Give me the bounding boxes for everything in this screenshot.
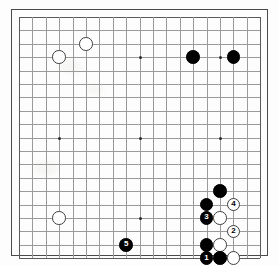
star-point [219, 137, 222, 140]
grid-line-vertical [86, 17, 87, 258]
stone-white[interactable] [213, 211, 227, 225]
grid-line-vertical [99, 17, 100, 258]
stone-black[interactable] [213, 184, 227, 198]
stone-move-number: 4 [231, 200, 235, 208]
grid-line-vertical [113, 17, 114, 258]
stone-move-number: 3 [204, 213, 208, 221]
stone-black[interactable] [200, 238, 214, 252]
grid-line-vertical [153, 17, 154, 258]
star-point [58, 137, 61, 140]
stone-black[interactable] [186, 50, 200, 64]
grid-line-vertical [19, 17, 20, 258]
grid-line-vertical [126, 17, 127, 258]
grid-line-vertical [260, 17, 261, 258]
stone-move-number: 1 [204, 254, 208, 262]
star-point [139, 137, 142, 140]
grid-line-vertical [73, 17, 74, 258]
grid-line-vertical [32, 17, 33, 258]
stone-white[interactable] [52, 211, 66, 225]
star-point [139, 217, 142, 220]
grid-line-vertical [247, 17, 248, 258]
stone-move-number: 2 [231, 227, 235, 235]
grid-line-vertical [46, 17, 47, 258]
star-point [139, 56, 142, 59]
stone-white[interactable] [79, 37, 93, 51]
stone-black[interactable] [213, 251, 227, 265]
stone-white[interactable] [227, 251, 241, 265]
numbered-stone-5[interactable]: 5 [119, 238, 133, 252]
stone-white[interactable] [52, 50, 66, 64]
stone-white[interactable] [213, 238, 227, 252]
go-board-diagram: 43215 [0, 0, 279, 266]
stone-black[interactable] [227, 50, 241, 64]
numbered-stone-3[interactable]: 3 [200, 211, 214, 225]
stone-move-number: 5 [124, 240, 128, 248]
grid-line-vertical [166, 17, 167, 258]
grid-line-vertical [180, 17, 181, 258]
